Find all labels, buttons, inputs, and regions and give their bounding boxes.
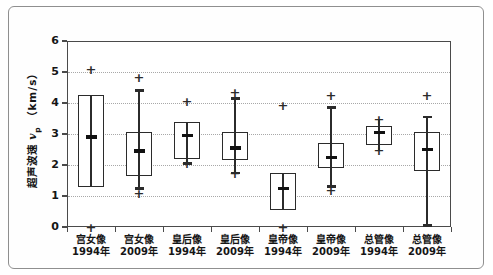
x-category-label: 总管像2009年 (397, 234, 457, 257)
outlier-marker: + (230, 86, 241, 99)
gridline (68, 103, 450, 104)
mean-marker (182, 134, 193, 138)
outlier-marker: + (278, 98, 289, 111)
y-tick-label: 6 (39, 34, 59, 48)
whisker-cap (423, 224, 432, 227)
x-tick (115, 227, 117, 232)
outlier-marker: + (182, 157, 193, 170)
y-tick-label: 5 (39, 65, 59, 79)
outlier-marker: + (374, 112, 385, 125)
gridline (68, 72, 450, 73)
x-tick (67, 227, 69, 232)
outlier-marker: + (326, 89, 337, 102)
outlier-marker: + (86, 62, 97, 75)
whisker-line (426, 117, 428, 226)
y-tick-label: 2 (39, 158, 59, 172)
y-tick (62, 195, 67, 197)
x-tick (307, 227, 309, 232)
outlier-marker: + (374, 143, 385, 156)
y-tick-label: 4 (39, 96, 59, 110)
x-tick (259, 227, 261, 232)
y-tick (62, 102, 67, 104)
y-tick (62, 133, 67, 135)
y-tick-label: 0 (39, 220, 59, 234)
gridline (68, 196, 450, 197)
whisker-line (138, 91, 140, 189)
whisker-line (282, 173, 284, 210)
whisker-line (90, 95, 92, 186)
mean-marker (374, 131, 385, 135)
outlier-marker: + (134, 186, 145, 199)
outlier-marker: + (422, 89, 433, 102)
outlier-marker: + (230, 166, 241, 179)
whisker-cap (423, 116, 432, 119)
y-axis-variable: v (26, 133, 38, 140)
outlier-marker: + (278, 221, 289, 234)
mean-marker (230, 146, 241, 150)
mean-marker (326, 156, 337, 160)
y-tick (62, 40, 67, 42)
plot-area (67, 41, 451, 227)
figure: 超声波速 vp （km/s） 0123456++宫女像1994年++宫女像200… (0, 0, 493, 275)
x-tick (355, 227, 357, 232)
y-tick-label: 3 (39, 127, 59, 141)
y-tick-label: 1 (39, 189, 59, 203)
y-tick (62, 71, 67, 73)
mean-marker (86, 135, 97, 139)
mean-marker (134, 149, 145, 153)
whisker-cap (135, 89, 144, 92)
outlier-marker: + (326, 183, 337, 196)
x-tick (211, 227, 213, 232)
x-tick (403, 227, 405, 232)
outlier-marker: + (86, 221, 97, 234)
whisker-line (330, 108, 332, 187)
y-axis-title-text: 超声波速 (26, 144, 38, 188)
mean-marker (422, 148, 433, 152)
whisker-line (234, 98, 236, 172)
y-tick (62, 164, 67, 166)
outlier-marker: + (182, 95, 193, 108)
outlier-marker: + (134, 70, 145, 83)
y-axis-unit: （km/s） (26, 68, 38, 122)
x-category-name: 总管像 (397, 234, 457, 246)
x-category-year: 2009年 (397, 246, 457, 258)
x-tick (451, 227, 453, 232)
x-tick (163, 227, 165, 232)
whisker-cap (327, 106, 336, 109)
mean-marker (278, 187, 289, 191)
